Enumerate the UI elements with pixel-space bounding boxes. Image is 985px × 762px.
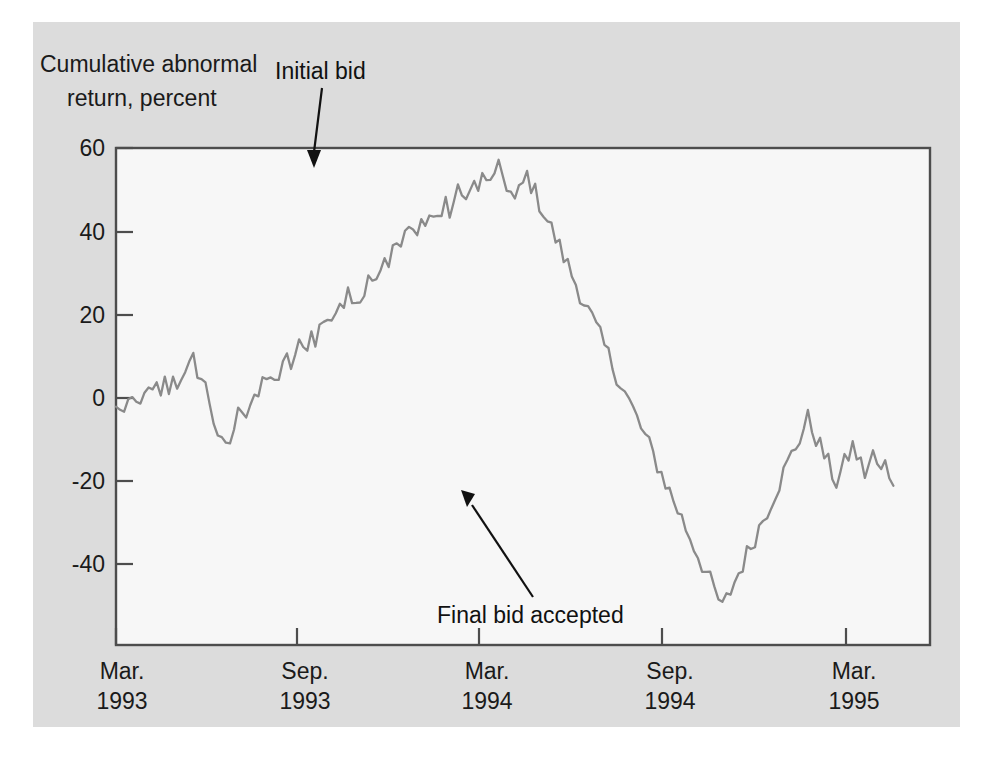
y-tick-label-minus40: -40: [72, 551, 105, 577]
x-tick-label-month-2: Sep.: [281, 658, 328, 684]
x-tick-label-month-1: Mar.: [100, 658, 145, 684]
x-tick-label-year-4: 1994: [644, 688, 695, 714]
plot-area-background: [116, 148, 930, 645]
y-axis-title-line2: return, percent: [67, 85, 217, 111]
x-tick-label-year-2: 1993: [279, 688, 330, 714]
x-tick-label-year-1: 1993: [96, 688, 147, 714]
y-tick-label-minus20: -20: [72, 468, 105, 494]
y-tick-label-40: 40: [79, 219, 105, 245]
annotation-final-bid-label: Final bid accepted: [437, 602, 624, 628]
figure-container: 60 40 20 0 -20 -40 Cumulative abnormal r…: [0, 0, 985, 762]
x-tick-label-month-4: Sep.: [646, 658, 693, 684]
y-tick-label-0: 0: [92, 385, 105, 411]
x-tick-label-month-5: Mar.: [832, 658, 877, 684]
chart-svg: 60 40 20 0 -20 -40 Cumulative abnormal r…: [0, 0, 985, 762]
x-tick-label-month-3: Mar.: [465, 658, 510, 684]
annotation-initial-bid-label: Initial bid: [275, 58, 366, 84]
y-axis-title-line1: Cumulative abnormal: [40, 51, 257, 77]
x-tick-label-year-5: 1995: [828, 688, 879, 714]
x-tick-label-year-3: 1994: [461, 688, 512, 714]
y-tick-label-20: 20: [79, 302, 105, 328]
y-tick-label-60: 60: [79, 135, 105, 161]
